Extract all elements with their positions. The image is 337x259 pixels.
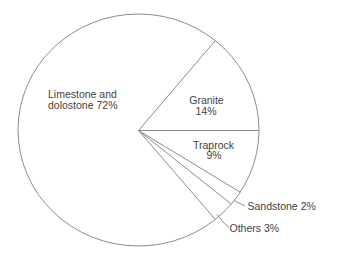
label-traprock-line2: 9%: [206, 149, 221, 161]
label-limestone-line2: dolostone 72%: [48, 99, 117, 111]
label-granite-line2: 14%: [195, 105, 216, 117]
leader-line-others: [217, 215, 229, 228]
leader-line-sandstone: [234, 201, 245, 207]
boundary-limestone-granite: [139, 41, 216, 131]
label-others: Others 3%: [230, 222, 280, 234]
pie-chart-figure: Limestone and dolostone 72% Granite 14% …: [0, 0, 337, 259]
label-sandstone: Sandstone 2%: [248, 200, 316, 212]
pie-chart-svg: Limestone and dolostone 72% Granite 14% …: [0, 0, 337, 259]
